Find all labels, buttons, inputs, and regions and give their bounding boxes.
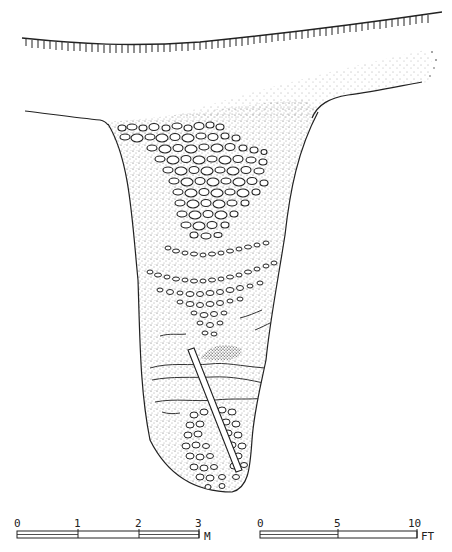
scale-tick-label: 0 [257, 517, 264, 530]
scale-tick-label: 2 [135, 517, 142, 530]
ground-surface [22, 12, 442, 53]
scale-tick-label: 0 [14, 517, 21, 530]
scale-tick-label: 5 [334, 517, 341, 530]
scale-tick-label: 1 [74, 517, 81, 530]
old-surface-line [25, 111, 108, 125]
scale-tick-label: 3 [195, 517, 202, 530]
scale-tick-label: 10 [408, 517, 421, 530]
scale-unit-label: M [204, 530, 211, 543]
scale-bar-imperial: 0 5 10 FT [257, 517, 435, 543]
scale-unit-label: FT [421, 530, 435, 543]
scale-bar-metric: 0 1 2 3 M [14, 517, 211, 543]
profile-drawing: 0 1 2 3 M 0 5 10 FT [0, 0, 452, 552]
